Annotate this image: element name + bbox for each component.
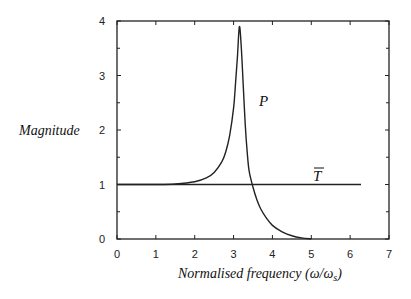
series-p-curve [117,26,311,239]
x-tick-label: 3 [231,248,237,260]
x-tick-label: 0 [114,248,120,260]
x-tick-label: 6 [347,248,353,260]
x-tick-label: 2 [192,248,198,260]
plot-frame [117,21,389,239]
axis-ticks [117,21,389,239]
y-tick-label: 1 [99,179,105,191]
curve-label-t-bar: T [313,168,324,184]
x-tick-label: 1 [153,248,159,260]
x-tick-label: 7 [386,248,392,260]
y-tick-label: 2 [99,124,105,136]
y-axis-title: Magnitude [18,123,80,138]
y-tick-label: 3 [99,70,105,82]
x-tick-label: 5 [308,248,314,260]
svg-text:T: T [313,168,323,184]
x-axis-title: Normalised frequency (ω/ωs) [177,266,342,283]
y-tick-label: 0 [99,233,105,245]
chart: 0123456701234 P T Magnitude Normalised f… [0,0,411,299]
x-tick-label: 4 [269,248,275,260]
y-tick-label: 4 [99,15,105,27]
curve-label-p: P [258,93,268,109]
